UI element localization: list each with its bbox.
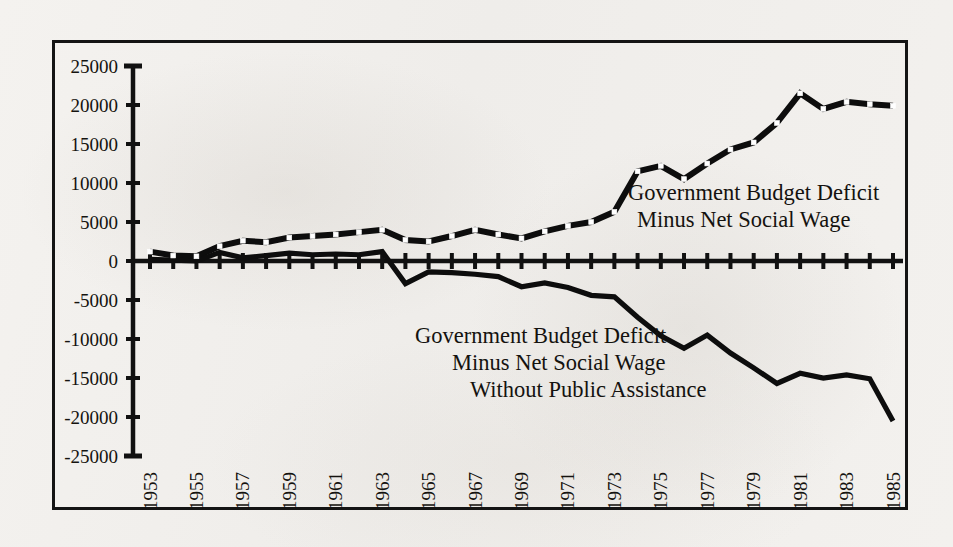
x-tick-label: 1979 bbox=[743, 472, 764, 510]
x-tick-label: 1957 bbox=[232, 472, 253, 510]
series-marker bbox=[519, 236, 524, 241]
x-tick-label: 1983 bbox=[836, 472, 857, 510]
x-tick-label: 1981 bbox=[790, 472, 811, 510]
series-marker bbox=[844, 99, 849, 104]
series-marker bbox=[426, 239, 431, 244]
annotation-upper-line2: Minus Net Social Wage bbox=[637, 207, 850, 232]
y-axis: 2500020000150001000050000-5000-10000-150… bbox=[64, 56, 142, 467]
series-marker bbox=[264, 240, 269, 245]
y-tick-label: -5000 bbox=[74, 290, 118, 311]
y-tick-label: -10000 bbox=[64, 329, 118, 350]
x-tick-label: 1953 bbox=[140, 472, 161, 510]
x-tick-label: 1967 bbox=[465, 472, 486, 510]
series-marker bbox=[357, 230, 362, 235]
y-tick-label: -25000 bbox=[64, 446, 118, 467]
y-tick-label: -20000 bbox=[64, 407, 118, 428]
series-marker bbox=[217, 244, 222, 249]
x-tick-label: 1961 bbox=[325, 472, 346, 510]
x-tick-label: 1971 bbox=[557, 472, 578, 510]
y-tick-label: 25000 bbox=[71, 56, 119, 77]
series-marker bbox=[635, 169, 640, 174]
x-tick-label: 1959 bbox=[279, 472, 300, 510]
y-tick-label: 5000 bbox=[80, 212, 118, 233]
x-tick-label: 1985 bbox=[883, 472, 904, 510]
figure-page: 2500020000150001000050000-5000-10000-150… bbox=[0, 0, 953, 547]
series-marker bbox=[310, 234, 315, 239]
series-marker bbox=[798, 91, 803, 96]
series-marker bbox=[449, 234, 454, 239]
series-marker bbox=[148, 249, 153, 254]
x-tick-label: 1973 bbox=[604, 472, 625, 510]
series-marker bbox=[333, 232, 338, 237]
series-marker bbox=[496, 232, 501, 237]
series-marker bbox=[891, 103, 896, 108]
y-tick-label: 0 bbox=[109, 251, 119, 272]
x-tick-label: 1963 bbox=[372, 472, 393, 510]
series-marker bbox=[821, 107, 826, 112]
y-tick-label: 20000 bbox=[71, 95, 119, 116]
series-marker bbox=[542, 229, 547, 234]
annotation-lower-line2: Minus Net Social Wage bbox=[452, 350, 665, 375]
series-marker bbox=[589, 220, 594, 225]
annotation-lower: Government Budget Deficit Minus Net Soci… bbox=[415, 323, 707, 402]
series-marker bbox=[403, 238, 408, 243]
series-marker bbox=[705, 161, 710, 166]
x-tick-label: 1969 bbox=[511, 472, 532, 510]
y-tick-label: -15000 bbox=[64, 368, 118, 389]
annotation-lower-line3: Without Public Assistance bbox=[470, 377, 707, 402]
series-marker bbox=[287, 235, 292, 240]
series-marker bbox=[658, 163, 663, 168]
y-tick-label: 10000 bbox=[71, 173, 119, 194]
series-marker bbox=[751, 140, 756, 145]
y-tick-label: 15000 bbox=[71, 134, 119, 155]
series-marker bbox=[775, 121, 780, 126]
x-tick-label: 1975 bbox=[650, 472, 671, 510]
series-marker bbox=[867, 102, 872, 107]
series-marker bbox=[566, 224, 571, 229]
series-marker bbox=[728, 147, 733, 152]
line-chart: 2500020000150001000050000-5000-10000-150… bbox=[0, 0, 953, 547]
annotation-upper: Government Budget Deficit Minus Net Soci… bbox=[628, 180, 880, 232]
annotation-lower-line1: Government Budget Deficit bbox=[415, 323, 667, 348]
annotation-upper-line1: Government Budget Deficit bbox=[628, 180, 880, 205]
series-marker bbox=[473, 227, 478, 232]
series-marker bbox=[612, 209, 617, 214]
series-marker bbox=[380, 227, 385, 232]
series-marker bbox=[194, 254, 199, 259]
x-tick-label: 1955 bbox=[186, 472, 207, 510]
x-tick-label: 1977 bbox=[697, 472, 718, 510]
series-marker bbox=[240, 238, 245, 243]
series-marker bbox=[171, 253, 176, 258]
x-tick-label: 1965 bbox=[418, 472, 439, 510]
